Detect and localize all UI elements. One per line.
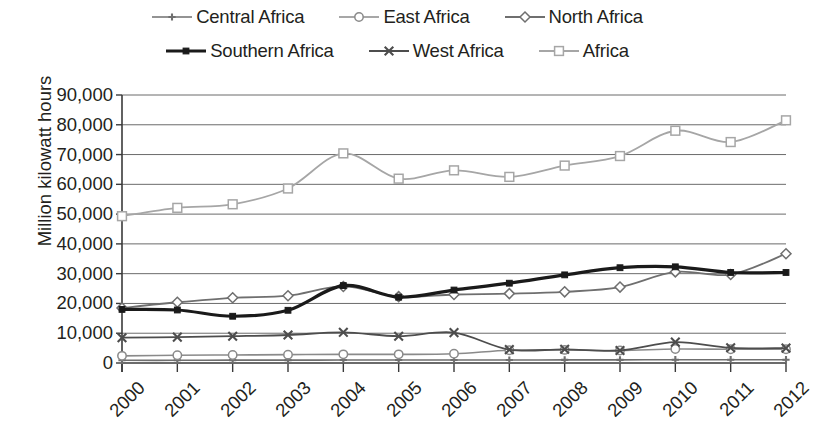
y-tick-label: 20,000 xyxy=(3,292,113,314)
y-tick-label: 60,000 xyxy=(3,173,113,195)
y-tick-label: 50,000 xyxy=(3,203,113,225)
series-africa xyxy=(118,116,791,221)
y-tick-label: 30,000 xyxy=(3,263,113,285)
y-tick-label: 40,000 xyxy=(3,233,113,255)
y-tick-label: 0 xyxy=(3,352,113,374)
y-tick-label: 80,000 xyxy=(3,114,113,136)
y-tick-label: 90,000 xyxy=(3,84,113,106)
series-east-africa xyxy=(118,345,790,360)
y-tick-label: 70,000 xyxy=(3,144,113,166)
y-tick-label: 10,000 xyxy=(3,322,113,344)
